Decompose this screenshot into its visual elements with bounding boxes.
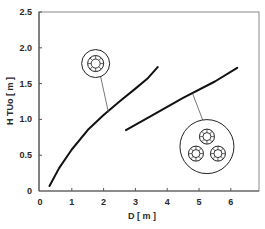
y-axis-label: H TUo [ m ] [5,77,15,125]
y-tick-label: 0 [27,186,32,196]
x-tick-label: 6 [228,197,233,207]
leader-line [101,77,109,113]
x-axis-label: D [ m ] [128,211,156,221]
x-tick-label: 0 [37,197,42,207]
series-line-2 [126,68,237,130]
x-tick-label: 1 [69,197,74,207]
y-tick-label: 0.5 [19,150,32,160]
triple-bundle-icon [180,94,234,174]
single-bundle-icon [82,50,110,113]
y-tick-label: 2.0 [19,43,32,53]
vessel-circle [180,120,234,174]
y-tick-label: 1.0 [19,114,32,124]
y-tick-label: 1.5 [19,79,32,89]
y-tick-label: 2.5 [19,7,32,17]
leader-line [193,94,203,121]
x-tick-label: 4 [165,197,170,207]
series-line-1 [50,67,158,186]
chart: 00.51.01.52.02.50123456 D [ m ] H TUo [ … [0,0,265,229]
x-tick-label: 3 [133,197,138,207]
x-tick-label: 5 [196,197,201,207]
axis-ticks: 00.51.01.52.02.50123456 [19,7,233,207]
x-tick-label: 2 [101,197,106,207]
